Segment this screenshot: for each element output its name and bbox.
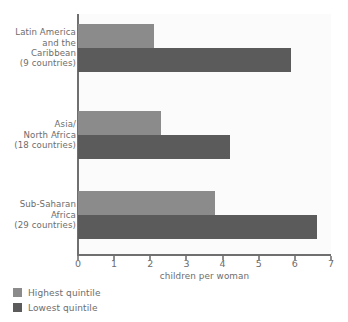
- category-label: Latin Americaand theCaribbean(9 countrie…: [4, 27, 76, 69]
- category-label-line: Africa: [4, 210, 76, 220]
- bar-lowest-quintile[interactable]: [78, 135, 230, 159]
- bar-lowest-quintile[interactable]: [78, 215, 317, 239]
- bar-highest-quintile[interactable]: [78, 111, 161, 135]
- bar-chart: Latin Americaand theCaribbean(9 countrie…: [0, 0, 348, 322]
- bar-lowest-quintile[interactable]: [78, 48, 291, 72]
- x-tick-label: 5: [249, 258, 269, 270]
- category-label: Sub-SaharanAfrica(29 countries): [4, 199, 76, 230]
- category-label: Asia/North Africa(18 countries): [4, 119, 76, 150]
- category-label-line: Caribbean: [4, 48, 76, 58]
- x-tick-label: 7: [321, 258, 341, 270]
- legend-item-lowest[interactable]: Lowest quintile: [13, 300, 101, 315]
- category-label-line: Asia/: [4, 119, 76, 129]
- category-label-line: (9 countries): [4, 58, 76, 68]
- category-label-line: North Africa: [4, 130, 76, 140]
- x-tick-label: 3: [176, 258, 196, 270]
- legend-swatch-lowest-icon: [13, 303, 22, 312]
- bar-highest-quintile[interactable]: [78, 24, 154, 48]
- x-tick-label: 1: [104, 258, 124, 270]
- legend-label-highest: Highest quintile: [28, 288, 101, 298]
- category-label-line: and the: [4, 38, 76, 48]
- x-axis-title: children per woman: [78, 271, 331, 281]
- legend-item-highest[interactable]: Highest quintile: [13, 285, 101, 300]
- legend-label-lowest: Lowest quintile: [28, 303, 98, 313]
- category-label-line: Sub-Saharan: [4, 199, 76, 209]
- category-label-line: (29 countries): [4, 220, 76, 230]
- x-tick-label: 2: [140, 258, 160, 270]
- bar-highest-quintile[interactable]: [78, 191, 215, 215]
- chart-title-remnant: [0, 0, 348, 8]
- category-label-line: Latin America: [4, 27, 76, 37]
- x-tick-label: 4: [213, 258, 233, 270]
- category-label-line: (18 countries): [4, 140, 76, 150]
- x-tick-label: 0: [68, 258, 88, 270]
- legend-swatch-highest-icon: [13, 288, 22, 297]
- x-tick-label: 6: [285, 258, 305, 270]
- chart-legend: Highest quintile Lowest quintile: [13, 285, 101, 315]
